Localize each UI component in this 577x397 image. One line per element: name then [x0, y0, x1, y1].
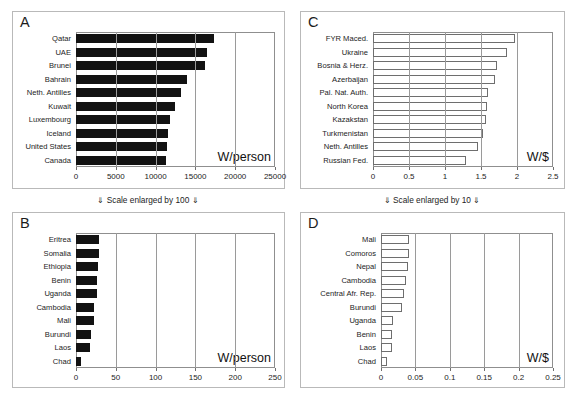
bar[interactable] — [373, 102, 487, 111]
bar-row[interactable] — [373, 102, 553, 111]
bar[interactable] — [373, 75, 495, 84]
gridline — [156, 233, 157, 368]
bar[interactable] — [381, 249, 409, 258]
bar-row[interactable] — [76, 262, 275, 271]
category-label: Laos — [55, 343, 71, 352]
category-label: Bosnia & Herz. — [317, 61, 368, 70]
bar[interactable] — [76, 276, 97, 285]
bar[interactable] — [381, 276, 406, 285]
category-label: Neth. Antilles — [27, 88, 71, 97]
bar[interactable] — [76, 61, 205, 70]
x-tick-label: 0.15 — [476, 373, 492, 383]
bar[interactable] — [76, 75, 187, 84]
bar-row[interactable] — [373, 34, 553, 43]
bar[interactable] — [381, 343, 392, 352]
bar[interactable] — [381, 330, 392, 339]
category-label: Somalia — [44, 249, 71, 258]
bar-row[interactable] — [76, 129, 275, 138]
bar-row[interactable] — [381, 303, 553, 312]
bar-row[interactable] — [373, 129, 553, 138]
bar-row[interactable] — [373, 75, 553, 84]
bar[interactable] — [373, 129, 483, 138]
bar-row[interactable] — [381, 262, 553, 271]
bar-row[interactable] — [381, 289, 553, 298]
bar-row[interactable] — [76, 330, 275, 339]
bar[interactable] — [373, 88, 488, 97]
bar[interactable] — [76, 262, 98, 271]
bar-row[interactable] — [76, 289, 275, 298]
bar-row[interactable] — [76, 303, 275, 312]
bar[interactable] — [76, 34, 214, 43]
x-tick-label: 0.25 — [545, 373, 561, 383]
bar[interactable] — [76, 330, 91, 339]
bar[interactable] — [76, 249, 99, 258]
bar-row[interactable] — [381, 316, 553, 325]
bar[interactable] — [76, 289, 97, 298]
bar-row[interactable] — [76, 88, 275, 97]
x-tickmark — [116, 167, 117, 170]
bar[interactable] — [373, 48, 507, 57]
bar[interactable] — [76, 88, 181, 97]
bar[interactable] — [76, 129, 168, 138]
bar[interactable] — [76, 102, 175, 111]
x-tick-label: 25000 — [264, 172, 286, 182]
bar[interactable] — [381, 316, 393, 325]
bar[interactable] — [373, 142, 478, 151]
bar-row[interactable] — [381, 235, 553, 244]
x-tick-label: 10000 — [144, 172, 166, 182]
bar[interactable] — [381, 262, 408, 271]
x-tick-label: 200 — [229, 373, 242, 383]
x-tick-label: 0 — [371, 172, 375, 182]
bar-row[interactable] — [76, 48, 275, 57]
bar[interactable] — [381, 289, 404, 298]
bar[interactable] — [381, 235, 409, 244]
bar[interactable] — [373, 115, 486, 124]
x-tick-label: 1.5 — [475, 172, 486, 182]
category-label: Eritrea — [49, 235, 71, 244]
bar[interactable] — [76, 235, 99, 244]
bar[interactable] — [381, 303, 402, 312]
bar-row[interactable] — [373, 115, 553, 124]
bar-row[interactable] — [381, 330, 553, 339]
bar-row[interactable] — [76, 115, 275, 124]
bar-row[interactable] — [381, 276, 553, 285]
panel-b-plot: W/person EritreaSomaliaEthiopiaBeninUgan… — [76, 233, 275, 368]
category-label: Kazakstan — [333, 115, 368, 124]
bar-row[interactable] — [76, 276, 275, 285]
category-label: Bahrain — [45, 75, 71, 84]
bar[interactable] — [76, 142, 167, 151]
bar[interactable] — [373, 156, 466, 165]
bar[interactable] — [381, 357, 387, 366]
bar-row[interactable] — [76, 235, 275, 244]
gridline — [156, 32, 157, 167]
bar-row[interactable] — [76, 34, 275, 43]
bar[interactable] — [76, 316, 94, 325]
bar[interactable] — [76, 343, 90, 352]
bar-row[interactable] — [76, 102, 275, 111]
category-label: Laos — [360, 343, 376, 352]
bar-row[interactable] — [373, 88, 553, 97]
bar[interactable] — [76, 156, 166, 165]
bar-row[interactable] — [76, 75, 275, 84]
bar-row[interactable] — [373, 48, 553, 57]
x-tickmark — [195, 368, 196, 371]
bar[interactable] — [373, 61, 497, 70]
panel-a-plot: W/person QatarUAEBruneiBahrainNeth. Anti… — [76, 32, 275, 167]
category-label: Turkmenistan — [322, 129, 368, 138]
category-label: Qatar — [52, 34, 71, 43]
x-tickmark — [445, 167, 446, 170]
category-label: Azerbaijan — [332, 75, 368, 84]
bar-row[interactable] — [76, 249, 275, 258]
panel-d-unit-label: W/$ — [527, 352, 549, 365]
bar[interactable] — [76, 357, 81, 366]
bar-row[interactable] — [381, 249, 553, 258]
bar-row[interactable] — [76, 316, 275, 325]
bar-row[interactable] — [373, 61, 553, 70]
bar-row[interactable] — [76, 61, 275, 70]
bar[interactable] — [76, 303, 94, 312]
x-tickmark — [381, 368, 382, 371]
bar[interactable] — [76, 48, 207, 57]
gridline — [409, 32, 410, 167]
bar[interactable] — [373, 34, 515, 43]
x-tickmark — [553, 368, 554, 371]
